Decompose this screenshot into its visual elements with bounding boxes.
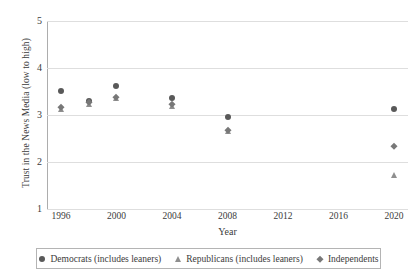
- x-tick-label: 1996: [51, 212, 70, 222]
- x-axis-title: Year: [47, 226, 408, 237]
- gridline: [47, 68, 408, 69]
- circle-marker-icon: [391, 106, 397, 112]
- x-tick-label: 2000: [107, 212, 126, 222]
- gridline: [47, 21, 408, 22]
- legend-entry[interactable]: Democrats (includes leaners): [38, 254, 161, 264]
- y-tick-label: 5: [37, 16, 42, 26]
- triangle-marker-icon: [174, 255, 182, 263]
- plot-area: 54321 1996200020042008201220162020: [47, 21, 408, 209]
- gridline: [47, 162, 408, 163]
- circle-marker-icon: [225, 114, 231, 120]
- y-tick-label: 3: [37, 110, 42, 120]
- circle-marker-icon: [38, 255, 46, 263]
- legend-marker-glyph: [317, 255, 323, 261]
- x-tick-label: 2016: [329, 212, 348, 222]
- triangle-marker-icon: [391, 172, 397, 178]
- diamond-marker-icon: [391, 143, 397, 149]
- legend-marker-glyph: [39, 256, 45, 262]
- circle-marker-icon: [58, 88, 64, 94]
- y-tick-label: 2: [37, 157, 42, 167]
- x-tick-label: 2020: [385, 212, 404, 222]
- y-tick-label: 1: [37, 204, 42, 214]
- scatter-chart-figure: Trust in the News Media (low to high) 54…: [0, 0, 415, 278]
- x-tick-label: 2008: [218, 212, 237, 222]
- diamond-marker-icon: [316, 255, 324, 263]
- y-tick-label: 4: [37, 63, 42, 73]
- legend-marker-glyph: [175, 256, 181, 262]
- gridline: [47, 209, 408, 210]
- legend-label: Republicans (includes leaners): [186, 254, 303, 264]
- legend-entry[interactable]: Republicans (includes leaners): [174, 254, 303, 264]
- y-axis-title: Trust in the News Media (low to high): [21, 13, 31, 213]
- legend-entry[interactable]: Independents: [316, 254, 379, 264]
- circle-marker-icon: [169, 95, 175, 101]
- circle-marker-icon: [113, 83, 119, 89]
- x-tick-label: 2004: [162, 212, 181, 222]
- legend-label: Democrats (includes leaners): [50, 254, 161, 264]
- x-tick-label: 2012: [274, 212, 293, 222]
- legend-label: Independents: [328, 254, 379, 264]
- chart-legend: Democrats (includes leaners)Republicans …: [36, 248, 381, 269]
